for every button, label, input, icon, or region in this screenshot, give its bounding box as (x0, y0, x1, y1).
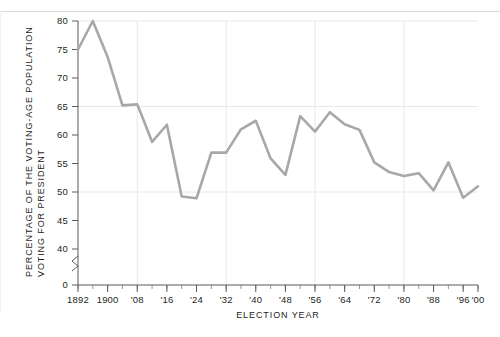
axes-group (72, 21, 478, 285)
x-tick-label: '88 (427, 294, 440, 305)
y-axis-title-line-1: PERCENTAGE OF THE VOTING-AGE POPULATION (24, 26, 34, 277)
voter-turnout-line-chart: 8075706560555045400 18921900'08'16'24'32… (0, 0, 500, 337)
x-axis-title: ELECTION YEAR (236, 310, 320, 320)
y-tick-label: 65 (57, 101, 68, 112)
y-tick-label-zero: 0 (63, 279, 68, 290)
x-ticks-group (78, 285, 478, 292)
chart-page: 8075706560555045400 18921900'08'16'24'32… (0, 0, 500, 337)
y-ticks-group (72, 21, 78, 285)
y-tick-label: 50 (57, 186, 68, 197)
x-tick-label: '64 (338, 294, 351, 305)
y-axis-title-line-2: VOTING FOR PRESIDENT (36, 149, 46, 277)
x-tick-label: '24 (190, 294, 203, 305)
x-tick-label: '16 (160, 294, 173, 305)
x-tick-label: '56 (309, 294, 322, 305)
y-tick-label: 75 (57, 44, 68, 55)
y-tick-labels-group: 8075706560555045400 (57, 15, 68, 290)
y-tick-label: 45 (57, 215, 68, 226)
x-tick-label: '96 (457, 294, 470, 305)
y-tick-label: 70 (57, 72, 68, 83)
x-tick-label: '72 (368, 294, 381, 305)
x-tick-label: '00 (472, 294, 485, 305)
x-tick-label: '08 (131, 294, 144, 305)
x-tick-label: 1900 (97, 294, 119, 305)
y-tick-label: 80 (57, 15, 68, 26)
x-tick-label: '80 (397, 294, 410, 305)
turnout-series-line (78, 21, 478, 198)
y-tick-label: 40 (57, 243, 68, 254)
x-tick-label: 1892 (67, 294, 89, 305)
x-tick-label: '48 (279, 294, 292, 305)
y-tick-label: 60 (57, 129, 68, 140)
x-tick-label: '40 (249, 294, 262, 305)
gridlines-group (78, 21, 478, 285)
y-axis-break-icon (72, 256, 78, 271)
y-tick-label: 55 (57, 158, 68, 169)
x-tick-label: '32 (220, 294, 233, 305)
x-tick-labels-group: 18921900'08'16'24'32'40'48'56'64'72'80'8… (67, 294, 484, 305)
